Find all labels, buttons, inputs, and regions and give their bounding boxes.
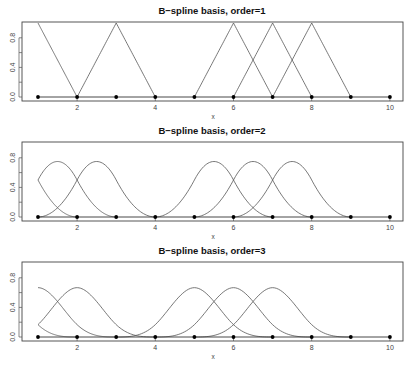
y-tick-label: 0.8 (9, 33, 16, 43)
y-axis: 0.00.40.8 (9, 33, 22, 102)
x-axis: 246810x (75, 97, 394, 120)
basis-function-line (194, 162, 311, 218)
knot-marker (36, 215, 40, 219)
x-tick-label: 8 (310, 104, 314, 111)
basis-function-line (116, 288, 272, 337)
knot-marker (75, 215, 79, 219)
x-tick-label: 2 (75, 104, 79, 111)
knot-marker (232, 95, 236, 99)
knot-marker (388, 215, 392, 219)
basis-function-line (38, 180, 77, 217)
knot-marker (36, 335, 40, 339)
x-axis: 246810x (75, 337, 394, 360)
chart-title: B−spline basis, order=2 (158, 125, 265, 136)
knot-marker (271, 95, 275, 99)
panel-order-1: B−spline basis, order=10.00.40.8246810x (9, 5, 403, 120)
knot-marker (310, 215, 314, 219)
x-tick-label: 8 (310, 224, 314, 231)
x-tick-label: 6 (232, 104, 236, 111)
knot-marker (193, 335, 197, 339)
basis-function-line (155, 288, 311, 337)
y-axis: 0.00.40.8 (9, 273, 22, 342)
chart-title: B−spline basis, order=3 (158, 245, 265, 256)
basis-function-line (155, 162, 272, 218)
x-tick-label: 4 (153, 104, 157, 111)
x-axis-label: x (211, 233, 215, 240)
chart-title: B−spline basis, order=1 (158, 5, 266, 16)
knot-marker (271, 215, 275, 219)
y-tick-label: 0.0 (9, 332, 16, 342)
knot-marker (114, 95, 118, 99)
x-tick-label: 6 (232, 224, 236, 231)
knot-marker (310, 335, 314, 339)
knot-marker (114, 215, 118, 219)
knot-marker (153, 215, 157, 219)
basis-function-line (38, 162, 116, 218)
x-tick-label: 4 (153, 224, 157, 231)
knot-marker (388, 335, 392, 339)
figure: B−spline basis, order=10.00.40.8246810x … (0, 0, 415, 368)
knot-marker (193, 215, 197, 219)
x-tick-label: 4 (153, 344, 157, 351)
y-tick-label: 0.4 (9, 62, 16, 72)
basis-function-line (38, 288, 116, 337)
basis-function-line (234, 162, 351, 218)
knot-marker (193, 95, 197, 99)
basis-function-line (38, 162, 155, 218)
knot-marker (349, 335, 353, 339)
x-tick-label: 10 (386, 344, 394, 351)
x-tick-label: 8 (310, 344, 314, 351)
knot-marker (349, 95, 353, 99)
knot-marker (114, 335, 118, 339)
plot-frame (22, 22, 403, 101)
basis-function-line (194, 23, 272, 97)
x-tick-label: 10 (386, 104, 394, 111)
x-tick-label: 2 (75, 224, 79, 231)
x-axis-label: x (211, 353, 215, 360)
knot-marker (310, 95, 314, 99)
knot-marker (153, 335, 157, 339)
panel-order-2: B−spline basis, order=20.00.40.8246810x (9, 125, 403, 240)
basis-function-line (38, 325, 77, 337)
knot-marker (349, 215, 353, 219)
y-axis: 0.00.40.8 (9, 153, 22, 222)
x-tick-label: 6 (232, 344, 236, 351)
basis-curves (38, 288, 351, 337)
knot-marker (388, 95, 392, 99)
knot-marker (232, 215, 236, 219)
basis-function-line (77, 23, 155, 97)
basis-function-line (38, 288, 155, 337)
y-tick-label: 0.4 (9, 302, 16, 312)
basis-function-line (38, 23, 77, 97)
basis-curves (38, 23, 351, 97)
y-tick-label: 0.8 (9, 273, 16, 283)
basis-function-line (273, 23, 351, 97)
x-axis-label: x (211, 113, 215, 120)
x-axis: 246810x (75, 217, 394, 240)
knot-marker (75, 95, 79, 99)
panel-order-3: B−spline basis, order=30.00.40.8246810x (9, 245, 403, 360)
basis-curves (38, 162, 351, 218)
knot-marker (232, 335, 236, 339)
plot-frame (22, 262, 403, 341)
knot-marker (75, 335, 79, 339)
knot-marker (271, 335, 275, 339)
knot-marker (36, 95, 40, 99)
y-tick-label: 0.4 (9, 182, 16, 192)
knot-marker (153, 95, 157, 99)
x-tick-label: 2 (75, 344, 79, 351)
y-tick-label: 0.0 (9, 212, 16, 222)
y-tick-label: 0.8 (9, 153, 16, 163)
y-tick-label: 0.0 (9, 92, 16, 102)
basis-function-line (234, 23, 312, 97)
basis-function-line (194, 288, 350, 337)
x-tick-label: 10 (386, 224, 394, 231)
